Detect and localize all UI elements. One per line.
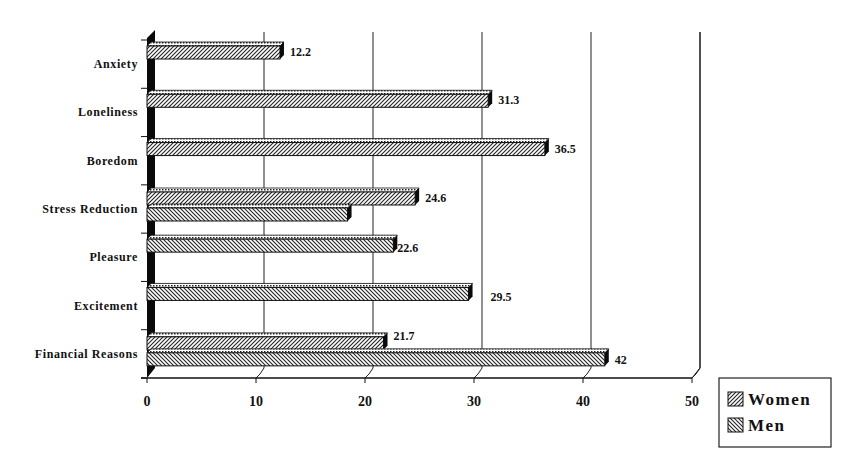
- legend: WomenMen: [719, 378, 831, 447]
- data-label: 29.5: [491, 290, 512, 304]
- x-tick-label: 40: [576, 394, 590, 409]
- back-plane-edge: [692, 32, 700, 378]
- legend-label-men: Men: [748, 416, 786, 435]
- floor-gridline: [365, 368, 373, 378]
- bar-women: [147, 188, 419, 205]
- legend-swatch-women: [728, 392, 743, 406]
- data-label: 21.7: [394, 329, 415, 343]
- category-label: Excitement: [74, 299, 138, 313]
- bar-women: [147, 90, 492, 107]
- category-label: Boredom: [87, 154, 138, 168]
- floor-gridline: [256, 368, 264, 378]
- category-label: Stress Reduction: [42, 202, 138, 216]
- bar-chart: 01020304050Anxiety12.2Loneliness31.3Bore…: [0, 0, 854, 467]
- data-label: 42: [615, 353, 627, 367]
- data-label: 12.2: [290, 45, 311, 59]
- x-tick-label: 50: [685, 394, 699, 409]
- x-tick-label: 30: [467, 394, 481, 409]
- plot-area: 01020304050Anxiety12.2Loneliness31.3Bore…: [35, 30, 700, 409]
- floor-gridline: [474, 368, 482, 378]
- bar-women: [147, 333, 388, 350]
- bar-women: [147, 139, 549, 156]
- bar-men: [147, 235, 397, 252]
- data-label: 36.5: [555, 142, 576, 156]
- category-label: Pleasure: [89, 250, 138, 264]
- category-label: Loneliness: [78, 105, 138, 119]
- legend-swatch-men: [728, 418, 743, 432]
- data-label: 31.3: [498, 93, 519, 107]
- bar-men: [147, 349, 609, 366]
- x-tick-label: 10: [249, 394, 263, 409]
- bar-women: [147, 42, 284, 59]
- bar-men: [147, 283, 473, 300]
- bar-men: [147, 204, 352, 221]
- category-label: Anxiety: [94, 57, 138, 71]
- category-label: Financial Reasons: [35, 347, 138, 361]
- data-label: 22.6: [397, 241, 418, 255]
- x-tick-label: 0: [144, 394, 151, 409]
- x-tick-label: 20: [358, 394, 372, 409]
- legend-box: [719, 378, 831, 447]
- legend-label-women: Women: [748, 390, 811, 409]
- floor-gridline: [583, 368, 591, 378]
- data-label: 24.6: [425, 191, 446, 205]
